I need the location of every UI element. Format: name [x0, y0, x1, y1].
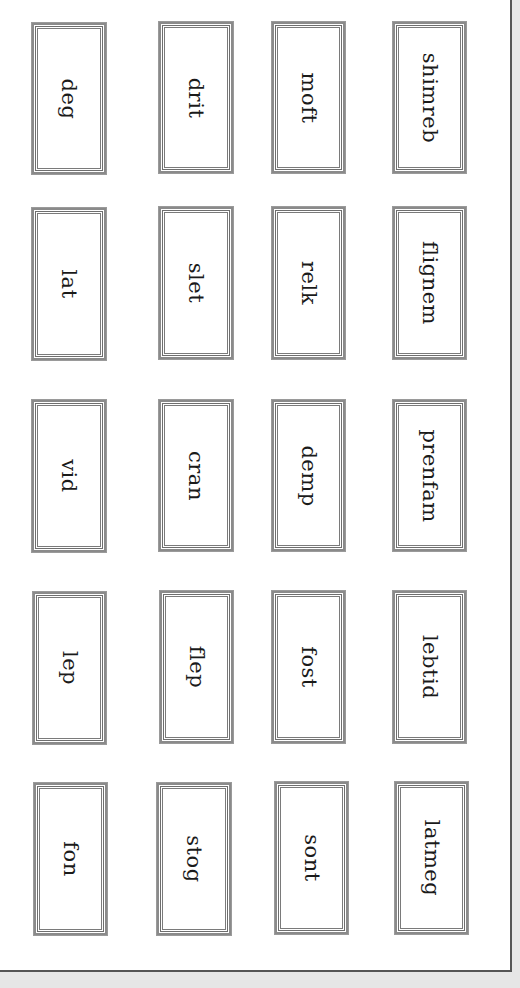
word-card: demp	[272, 400, 345, 551]
word-label: lat	[57, 269, 81, 298]
word-card: lebtid	[393, 591, 466, 743]
word-card: deg	[32, 23, 106, 174]
word-card: sont	[275, 782, 348, 934]
word-card: moft	[272, 22, 345, 173]
word-card: fost	[272, 591, 345, 743]
word-card: lat	[32, 208, 106, 360]
word-label: shimreb	[418, 52, 442, 142]
word-label: moft	[297, 72, 321, 123]
word-label: lep	[58, 651, 82, 685]
word-card: latmeg	[395, 782, 468, 934]
word-card: shimreb	[393, 22, 466, 173]
word-card: flignem	[393, 207, 466, 359]
word-card: stog	[157, 783, 231, 935]
word-card: slet	[159, 207, 233, 359]
word-label: fost	[297, 646, 321, 688]
word-card: flep	[160, 591, 233, 743]
word-label: cran	[184, 451, 208, 501]
word-card: drit	[159, 22, 233, 173]
word-card: lep	[33, 592, 106, 744]
word-label: deg	[57, 78, 81, 119]
word-label: slet	[184, 263, 208, 303]
word-label: flep	[185, 646, 209, 688]
word-card: prenfam	[393, 400, 466, 551]
word-label: fon	[59, 841, 83, 876]
word-label: relk	[297, 261, 321, 305]
word-label: latmeg	[420, 820, 444, 896]
word-card: relk	[272, 207, 345, 359]
word-label: lebtid	[418, 635, 442, 699]
word-label: sont	[300, 834, 324, 881]
word-label: stog	[182, 835, 206, 882]
word-card: vid	[32, 400, 106, 552]
word-card: fon	[34, 783, 107, 935]
word-label: flignem	[418, 241, 442, 325]
word-label: drit	[184, 77, 208, 118]
word-label: vid	[57, 459, 81, 493]
word-label: prenfam	[418, 429, 442, 522]
word-label: demp	[297, 445, 321, 506]
worksheet-page: deg drit moft shimreb lat slet relk flig…	[0, 0, 512, 972]
word-card: cran	[159, 400, 233, 551]
